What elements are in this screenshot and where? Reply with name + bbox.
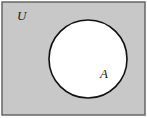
set-a-label: A [99,66,108,81]
set-a-circle [49,20,127,98]
venn-diagram: U A [0,0,147,118]
universe-label: U [17,8,28,23]
